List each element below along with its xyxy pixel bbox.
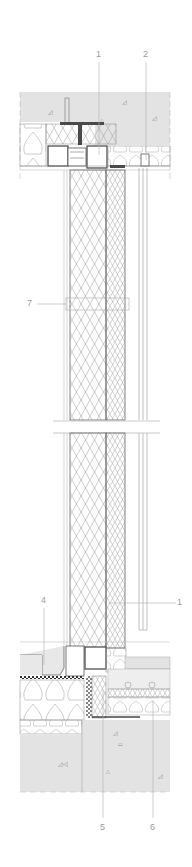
wall-lower: [64, 433, 147, 648]
bottom-concrete-right: [82, 720, 170, 792]
head-detail: ◿ ◿ △ ◿: [20, 92, 170, 180]
svg-text:◿: ◿: [48, 109, 53, 115]
waterproof-membrane: [20, 676, 84, 679]
perimeter-insulation: [86, 676, 92, 718]
svg-text:◿: ◿: [122, 99, 127, 105]
top-concrete-slab: [20, 92, 170, 122]
window-frame-right: [87, 146, 107, 168]
svg-text:◿: ◿: [152, 115, 157, 121]
callout-7: 7: [27, 299, 32, 308]
callout-5: 5: [100, 823, 105, 832]
svg-text:▭: ▭: [118, 741, 123, 747]
break-lines: [53, 421, 160, 433]
bottom-concrete-left: [20, 734, 82, 792]
callout-2: 2: [143, 50, 148, 59]
svg-text:△: △: [106, 768, 110, 774]
svg-text:◿◁: ◿◁: [58, 761, 68, 767]
steel-lintel: [60, 122, 104, 125]
svg-text:◿: ◿: [113, 730, 118, 736]
floor-screed: [125, 657, 170, 669]
window-frame-left: [48, 146, 68, 166]
main-insulation: [70, 170, 106, 420]
wall-section-drawing: ◿ ◿ △ ◿: [0, 0, 192, 867]
wall-upper: [64, 168, 147, 420]
svg-text:◿: ◿: [158, 773, 163, 779]
secondary-insulation: [106, 170, 125, 420]
callout-1-top: 1: [96, 50, 101, 59]
callout-1-bottom: 1: [177, 598, 182, 607]
callout-6: 6: [150, 823, 155, 832]
sill-frame: [85, 647, 106, 669]
callout-4: 4: [41, 596, 46, 605]
